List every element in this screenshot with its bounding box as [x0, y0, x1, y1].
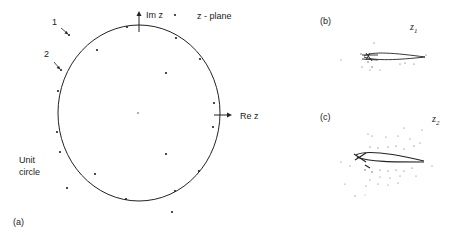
re-axis-arrow [214, 113, 232, 118]
panel-c-label: (c) [320, 112, 331, 122]
panel-b-label: (b) [320, 16, 331, 26]
marker-2-label: 2 [44, 49, 49, 59]
im-axis-label: Im z [146, 10, 163, 20]
re-axis-label: Re z [240, 111, 259, 121]
panel-b-z-label: z1 [409, 21, 417, 35]
panel-c: (c) z2 [320, 112, 440, 197]
im-axis-arrow [137, 11, 142, 32]
unit-circle-label-line1: Unit [19, 155, 36, 165]
marker-1-arrow [61, 28, 69, 35]
panel-c-z-label: z2 [431, 113, 440, 127]
marker-2-arrow [54, 62, 61, 70]
zero-points [56, 14, 215, 213]
airfoil-z1-points [341, 42, 427, 70]
plane-label: z - plane [197, 11, 232, 21]
panel-a: Im z Re z z - plane 1 2 Unit circle (a) [13, 10, 259, 227]
unit-circle-label-line2: circle [19, 167, 40, 177]
airfoil-z1 [362, 53, 425, 61]
panel-b: (b) z1 [320, 16, 427, 71]
panel-a-label: (a) [13, 217, 24, 227]
figure-canvas: Im z Re z z - plane 1 2 Unit circle (a) [0, 0, 456, 235]
unit-circle [58, 25, 220, 201]
airfoil-z2 [354, 153, 424, 168]
marker-1-label: 1 [52, 17, 57, 27]
